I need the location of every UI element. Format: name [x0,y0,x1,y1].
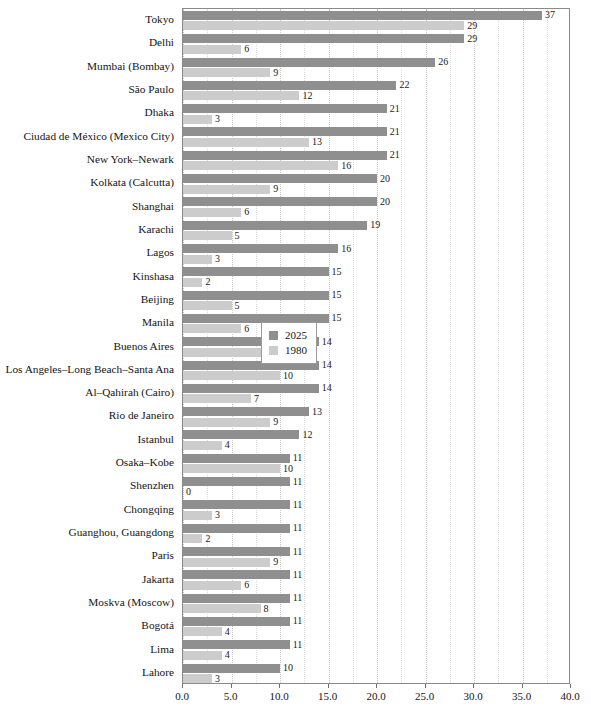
bar-1980 [183,208,241,217]
x-tick-mark [570,684,571,688]
bar-1980 [183,441,222,450]
bar-value-2025: 22 [399,80,409,90]
bar-value-2025: 14 [322,337,332,347]
x-tick-label: 20.0 [366,690,385,702]
category-label: Los Angeles–Long Beach–Santa Ana [6,363,174,375]
bar-1980 [183,371,280,380]
bar-value-2025: 19 [370,220,380,230]
category-label: Lagos [146,246,174,258]
category-label: Kolkata (Calcutta) [90,176,174,188]
bar-value-1980: 3 [215,510,220,520]
bar-2025 [183,244,338,253]
bar-value-1980: 9 [273,184,278,194]
bar-value-1980: 3 [215,114,220,124]
bar-value-2025: 13 [312,407,322,417]
bar-value-1980: 4 [225,627,230,637]
category-label: Shenzhen [130,479,174,491]
legend-label-1980: 1980 [285,345,307,356]
category-label: Tokyo [145,13,174,25]
legend-swatch-1980 [269,346,278,355]
category-label: Paris [151,549,174,561]
bar-value-2025: 11 [293,640,303,650]
bar-value-1980: 3 [215,254,220,264]
legend-label-2025: 2025 [285,330,307,341]
bar-value-1980: 9 [273,557,278,567]
category-label: Ciudad de México (Mexico City) [23,130,174,142]
bar-value-1980: 4 [225,650,230,660]
bar-value-1980: 9 [273,68,278,78]
bar-value-2025: 16 [341,244,351,254]
x-tick-label: 25.0 [415,690,434,702]
bar-1980 [183,161,338,170]
bar-value-1980: 4 [225,440,230,450]
bar-value-1980: 10 [283,464,293,474]
bar-1980 [183,21,464,30]
bar-2025 [183,454,290,463]
gridline-minor [401,9,402,683]
bar-value-1980: 29 [467,21,477,31]
x-tick-label: 10.0 [269,690,288,702]
plot-area: 3729296269221221321132116209206195163152… [182,8,570,684]
bar-2025 [183,384,319,393]
bar-1980 [183,185,270,194]
bar-2025 [183,430,299,439]
gridline-minor [498,9,499,683]
category-label: Osaka–Kobe [116,456,174,468]
category-label: Delhi [149,36,174,48]
x-tick-label: 40.0 [560,690,579,702]
gridline-major [523,9,524,683]
bar-1980 [183,231,232,240]
bar-1980 [183,68,270,77]
gridline-major [426,9,427,683]
x-tick-mark [182,684,183,688]
category-label: Manila [142,316,174,328]
category-label: New York–Newark [87,153,174,165]
bar-2025 [183,58,435,67]
category-label: Kinshasa [133,270,174,282]
bar-value-1980: 2 [205,277,210,287]
category-label: Bogotá [141,619,174,631]
bar-value-1980: 10 [283,371,293,381]
category-label: Moskva (Moscow) [88,596,174,608]
bar-value-1980: 8 [264,604,269,614]
bar-2025 [183,500,290,509]
category-label: Dhaka [145,106,174,118]
bar-2025 [183,524,290,533]
x-tick-mark [328,684,329,688]
bar-value-2025: 11 [293,453,303,463]
bar-value-1980: 9 [273,417,278,427]
bar-2025 [183,617,290,626]
category-label-column: TokyoDelhiMumbai (Bombay)São PauloDhakaC… [0,8,178,684]
bar-1980 [183,324,241,333]
bar-2025 [183,291,329,300]
bar-value-2025: 37 [545,10,555,20]
gridline-major [474,9,475,683]
bar-1980 [183,91,299,100]
x-tick-label: 0.0 [175,690,189,702]
category-label: Shanghai [132,200,174,212]
category-label: Lima [150,643,174,655]
bar-chart: TokyoDelhiMumbai (Bombay)São PauloDhakaC… [0,0,591,715]
bar-2025 [183,477,290,486]
bar-2025 [183,197,377,206]
bar-value-2025: 15 [332,313,342,323]
bar-value-2025: 11 [293,547,303,557]
x-tick-label: 5.0 [224,690,238,702]
bar-1980 [183,348,270,357]
bar-value-1980: 6 [244,324,249,334]
x-tick-mark [376,684,377,688]
bar-1980 [183,511,212,520]
bar-value-1980: 5 [235,231,240,241]
bar-value-2025: 21 [390,150,400,160]
bar-1980 [183,301,232,310]
category-label: Guanghou, Guangdong [69,526,174,538]
bar-2025 [183,34,464,43]
bar-value-1980: 16 [341,161,351,171]
bar-1980 [183,534,202,543]
bar-value-1980: 6 [244,580,249,590]
bar-1980 [183,674,212,683]
category-label: Lahore [142,666,174,678]
bar-2025 [183,127,387,136]
bar-2025 [183,81,396,90]
bar-1980 [183,278,202,287]
